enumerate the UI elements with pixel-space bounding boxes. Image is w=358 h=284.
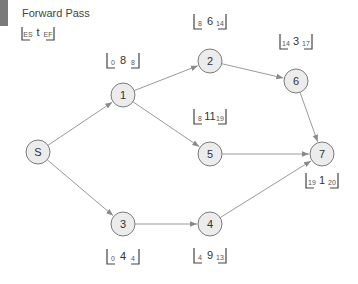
es-value: 0 [111, 255, 115, 262]
es-value: 8 [198, 20, 202, 27]
timing-box-4: 4913 [194, 248, 226, 263]
ef-value: 14 [216, 20, 224, 27]
ef-value: 8 [131, 59, 135, 66]
timing-box-3: 044 [107, 249, 139, 264]
timing-box-5: 81119 [194, 109, 226, 124]
edge-6-7 [300, 92, 318, 141]
timing-box-2: 8614 [194, 14, 226, 29]
node-label: 5 [207, 148, 213, 160]
edge-S-1 [48, 102, 112, 145]
ef-value: 20 [328, 179, 336, 186]
boxes-layer: 08886140444913811191431719120 [107, 14, 338, 264]
node-7[interactable]: 7 [310, 142, 334, 166]
node-label: 1 [120, 89, 126, 101]
legend-es: ES [23, 31, 33, 38]
duration-value: 1 [319, 174, 325, 186]
ef-value: 13 [216, 254, 224, 261]
edge-1-2 [134, 66, 198, 91]
node-label: 6 [293, 75, 299, 87]
ef-value: 19 [216, 115, 224, 122]
duration-value: 4 [120, 250, 126, 262]
legend-bracket: ES t EF [22, 26, 54, 40]
duration-value: 6 [207, 15, 213, 27]
es-value: 0 [111, 59, 115, 66]
edge-4-7 [220, 161, 311, 218]
edge-S-3 [47, 160, 113, 216]
edges-layer [47, 64, 317, 224]
edge-2-6 [222, 64, 284, 78]
duration-value: 3 [293, 35, 299, 47]
legend-ef: EF [44, 31, 53, 38]
timing-box-7: 19120 [306, 173, 338, 188]
es-value: 19 [308, 179, 316, 186]
node-S[interactable]: S [26, 140, 50, 164]
node-label: 3 [120, 218, 126, 230]
node-3[interactable]: 3 [111, 212, 135, 236]
node-6[interactable]: 6 [284, 69, 308, 93]
edge-1-5 [133, 102, 199, 147]
duration-value: 9 [207, 249, 213, 261]
node-label: 7 [319, 148, 325, 160]
node-5[interactable]: 5 [198, 142, 222, 166]
es-value: 14 [282, 40, 290, 47]
ef-value: 17 [302, 40, 310, 47]
node-label: 2 [207, 55, 213, 67]
legend-t: t [36, 26, 39, 38]
node-2[interactable]: 2 [198, 49, 222, 73]
es-value: 4 [198, 254, 202, 261]
es-value: 8 [198, 115, 202, 122]
nodes-layer: S1234567 [26, 49, 334, 236]
node-1[interactable]: 1 [111, 83, 135, 107]
duration-value: 11 [204, 110, 215, 122]
ef-value: 4 [131, 255, 135, 262]
node-label: 4 [207, 218, 213, 230]
timing-box-1: 088 [107, 53, 139, 68]
network-diagram: ES t EF S1234567 08886140444913811191431… [0, 0, 358, 284]
timing-box-6: 14317 [280, 34, 312, 49]
node-label: S [34, 146, 41, 158]
duration-value: 8 [120, 54, 126, 66]
node-4[interactable]: 4 [198, 212, 222, 236]
